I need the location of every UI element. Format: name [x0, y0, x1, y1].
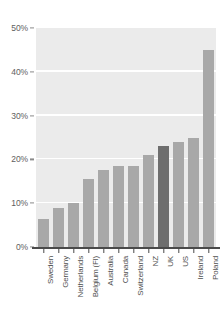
y-tick-label: 10%	[11, 198, 28, 208]
x-tick-mark	[178, 248, 179, 253]
x-axis-label: Canada	[122, 256, 130, 283]
bar-poland	[203, 50, 215, 247]
y-tick-mark	[30, 27, 34, 28]
y-tick-label: 40%	[11, 67, 28, 77]
bar-uk	[158, 146, 170, 247]
y-tick-mark	[30, 159, 34, 160]
x-axis-label: Sweden	[47, 256, 55, 284]
x-tick-mark	[118, 248, 119, 253]
x-axis-label: Switzerland	[137, 256, 145, 296]
x-axis-label: NZ	[152, 256, 160, 266]
bar-australia	[98, 170, 110, 247]
x-tick-mark	[208, 248, 209, 253]
y-tick-label: 0%	[16, 242, 28, 252]
bar-netherlands	[68, 203, 80, 247]
x-axis-ticks	[36, 248, 216, 254]
bar-ireland	[188, 138, 200, 248]
x-axis-label: Netherlands	[77, 256, 85, 298]
x-axis-label: Belgium (Fl)	[92, 256, 100, 297]
x-tick-mark	[73, 248, 74, 253]
bar-sweden	[38, 219, 50, 247]
y-tick-mark	[30, 203, 34, 204]
y-tick-label: 20%	[11, 154, 28, 164]
x-tick-mark	[103, 248, 104, 253]
x-axis-label: Ireland	[197, 256, 205, 279]
y-tick-label: 30%	[11, 111, 28, 121]
bar-us	[173, 142, 185, 247]
x-tick-mark	[88, 248, 89, 253]
bar-belgium-fl	[83, 179, 95, 247]
bar-chart: 0%10%20%30%40%50% SwedenGermanyNetherlan…	[0, 0, 220, 320]
bar-nz	[143, 155, 155, 247]
x-axis-label: Germany	[62, 256, 70, 288]
x-tick-mark	[148, 248, 149, 253]
x-axis-label: UK	[167, 256, 175, 267]
bar-switzerland	[128, 166, 140, 247]
y-tick-mark	[30, 115, 34, 116]
x-tick-mark	[133, 248, 134, 253]
y-tick-label: 50%	[11, 23, 28, 33]
bars-layer	[36, 28, 216, 247]
bar-germany	[53, 208, 65, 247]
x-tick-mark	[163, 248, 164, 253]
x-axis-label: Australia	[107, 256, 115, 286]
x-tick-mark	[193, 248, 194, 253]
y-tick-mark	[30, 71, 34, 72]
y-axis: 0%10%20%30%40%50%	[0, 0, 36, 320]
x-axis-label: US	[182, 256, 190, 267]
x-tick-mark	[43, 248, 44, 253]
x-tick-mark	[58, 248, 59, 253]
bar-canada	[113, 166, 125, 247]
x-axis-labels: SwedenGermanyNetherlandsBelgium (Fl)Aust…	[36, 256, 216, 320]
x-axis-label: Poland	[212, 256, 220, 280]
